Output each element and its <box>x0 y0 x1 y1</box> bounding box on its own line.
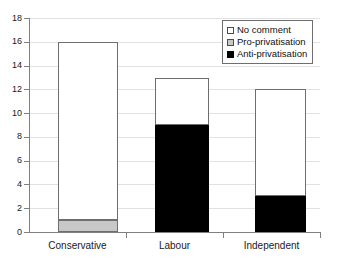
y-tick-label: 8 <box>2 132 22 141</box>
y-tick-mark <box>24 184 29 185</box>
x-tick-mark <box>320 233 321 238</box>
legend-label: No comment <box>237 25 291 35</box>
legend-item-no-comment[interactable]: No comment <box>227 24 307 36</box>
y-axis-tick-labels: 18 16 14 12 10 8 6 4 2 0 <box>0 0 22 263</box>
y-tick-label: 16 <box>2 37 22 46</box>
y-tick-mark <box>24 232 29 233</box>
y-tick-mark <box>24 161 29 162</box>
legend-label: Anti-privatisation <box>237 49 307 59</box>
bar-segment-anti-privatisation[interactable] <box>155 125 209 232</box>
y-tick-label: 10 <box>2 109 22 118</box>
y-tick-mark <box>24 137 29 138</box>
bar-segment-no-comment[interactable] <box>58 42 118 220</box>
bar-segment-no-comment[interactable] <box>155 78 209 126</box>
bar-conservative[interactable] <box>58 42 118 232</box>
y-tick-label: 6 <box>2 156 22 165</box>
stacked-bar-chart: 18 16 14 12 10 8 6 4 2 0 Conservative La… <box>0 0 337 263</box>
legend: No comment Pro-privatisation Anti-privat… <box>222 20 313 64</box>
y-tick-label: 14 <box>2 61 22 70</box>
bar-segment-pro-privatisation[interactable] <box>58 220 118 232</box>
legend-item-pro-privatisation[interactable]: Pro-privatisation <box>227 36 307 48</box>
y-tick-mark <box>24 113 29 114</box>
bar-labour[interactable] <box>155 78 209 233</box>
gridline-18 <box>29 18 320 19</box>
bar-independent[interactable] <box>255 89 306 232</box>
white-square-icon <box>227 27 234 34</box>
y-tick-mark <box>24 89 29 90</box>
legend-item-anti-privatisation[interactable]: Anti-privatisation <box>227 48 307 60</box>
x-tick-mark <box>223 233 224 238</box>
y-tick-label: 18 <box>2 14 22 23</box>
y-tick-mark <box>24 66 29 67</box>
y-tick-label: 12 <box>2 85 22 94</box>
gray-square-icon <box>227 39 234 46</box>
x-tick-mark <box>126 233 127 238</box>
y-axis-line <box>29 18 30 233</box>
x-tick-label-independent: Independent <box>223 240 320 252</box>
y-tick-label: 0 <box>2 228 22 237</box>
black-square-icon <box>227 51 234 58</box>
y-tick-mark <box>24 208 29 209</box>
bar-segment-anti-privatisation[interactable] <box>255 196 306 232</box>
y-tick-label: 4 <box>2 180 22 189</box>
x-tick-label-labour: Labour <box>126 240 223 252</box>
legend-label: Pro-privatisation <box>237 37 306 47</box>
x-tick-label-conservative: Conservative <box>29 240 126 252</box>
y-tick-label: 2 <box>2 204 22 213</box>
y-tick-mark <box>24 42 29 43</box>
bar-segment-no-comment[interactable] <box>255 89 306 196</box>
y-tick-mark <box>24 18 29 19</box>
x-axis-line <box>29 232 321 233</box>
